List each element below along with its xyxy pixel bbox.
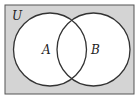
venn-diagram: U A B (0, 0, 138, 100)
set-b-label: B (90, 43, 100, 57)
set-a-label: A (41, 43, 51, 57)
universe-label: U (12, 9, 23, 23)
